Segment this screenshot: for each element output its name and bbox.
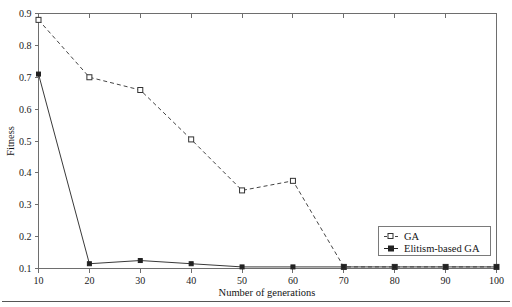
y-tick-label: 0.5 <box>19 136 32 147</box>
data-point-marker-elitism-based-ga <box>444 265 448 269</box>
legend-marker-filled-square-icon <box>389 246 394 251</box>
data-point-marker-elitism-based-ga <box>393 265 397 269</box>
x-axis-title: Number of generations <box>219 287 316 298</box>
y-tick-label: 0.6 <box>19 104 32 115</box>
y-tick-label: 0.7 <box>19 72 32 83</box>
x-tick-label: 70 <box>339 275 349 286</box>
y-tick-label: 0.8 <box>19 40 32 51</box>
data-point-marker-ga <box>240 188 245 193</box>
x-tick-label: 10 <box>34 275 44 286</box>
y-tick-label: 0.2 <box>19 231 32 242</box>
data-point-marker-elitism-based-ga <box>240 265 244 269</box>
x-tick-label: 100 <box>489 275 504 286</box>
y-tick-label: 0.1 <box>19 263 32 274</box>
y-axis-ticks: 0.10.20.30.40.50.60.70.80.9 <box>19 8 39 274</box>
data-point-marker-elitism-based-ga <box>495 265 499 269</box>
data-point-marker-ga <box>189 137 194 142</box>
x-tick-label: 40 <box>186 275 196 286</box>
data-point-marker-elitism-based-ga <box>189 262 193 266</box>
data-point-marker-elitism-based-ga <box>342 265 346 269</box>
data-point-marker-elitism-based-ga <box>87 262 91 266</box>
legend: GA Elitism-based GA <box>379 227 491 256</box>
x-tick-label: 80 <box>390 275 400 286</box>
x-tick-label: 30 <box>135 275 145 286</box>
data-point-marker-ga <box>87 75 92 80</box>
data-point-marker-ga <box>36 17 41 22</box>
x-tick-label: 90 <box>441 275 451 286</box>
data-point-marker-elitism-based-ga <box>138 259 142 263</box>
x-tick-label: 20 <box>84 275 94 286</box>
y-axis-title: Fitness <box>5 126 16 156</box>
y-tick-label: 0.3 <box>19 199 32 210</box>
footer-divider <box>2 301 510 302</box>
y-tick-label: 0.4 <box>19 167 32 178</box>
data-point-marker-elitism-based-ga <box>37 72 41 76</box>
x-tick-label: 60 <box>288 275 298 286</box>
data-point-marker-ga <box>290 178 295 183</box>
data-point-marker-ga <box>138 88 143 93</box>
y-tick-label: 0.9 <box>19 8 32 19</box>
legend-label-ga: GA <box>404 231 420 242</box>
fitness-vs-generations-chart: 0.10.20.30.40.50.60.70.80.9 102030405060… <box>0 0 512 307</box>
data-point-marker-elitism-based-ga <box>291 265 295 269</box>
figure-container: 0.10.20.30.40.50.60.70.80.9 102030405060… <box>0 0 512 307</box>
legend-marker-open-square-icon <box>388 234 393 239</box>
x-tick-label: 50 <box>237 275 247 286</box>
legend-label-elitism-based-ga: Elitism-based GA <box>404 243 480 254</box>
